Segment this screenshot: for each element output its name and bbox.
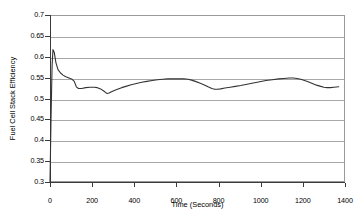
y-axis-title: Fuel Cell Stack Efficiency bbox=[7, 15, 18, 182]
series-layer bbox=[0, 0, 362, 220]
series-line-fuel-cell-stack-efficiency bbox=[50, 50, 339, 182]
line-chart: 0.30.350.40.450.50.550.60.650.7 02004006… bbox=[0, 0, 362, 220]
x-axis-title: Time (Seconds) bbox=[50, 201, 345, 208]
